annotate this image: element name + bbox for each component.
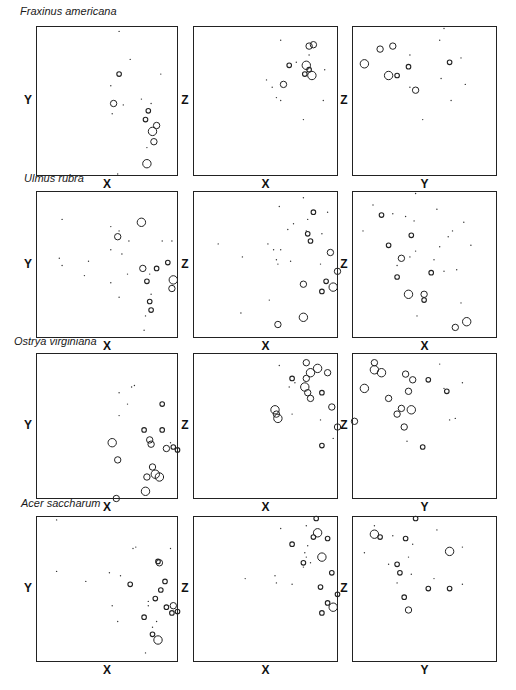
data-point (415, 193, 416, 194)
data-point (287, 229, 288, 230)
data-point (240, 312, 241, 313)
data-point (407, 406, 415, 414)
data-point (291, 413, 292, 414)
data-point (110, 100, 116, 106)
data-point (296, 62, 297, 63)
data-point (460, 302, 461, 303)
data-point (395, 275, 400, 280)
data-point (327, 212, 328, 213)
data-point (308, 239, 313, 244)
scatter-plot-area (353, 354, 496, 498)
y-axis-label: Z (177, 418, 193, 432)
scatter-plot-area (353, 27, 496, 175)
data-point (445, 389, 450, 394)
data-point (465, 84, 466, 85)
data-point (148, 441, 154, 447)
data-point (142, 428, 147, 433)
data-point (463, 318, 471, 326)
data-point (325, 601, 330, 606)
data-point (146, 147, 147, 148)
data-point (127, 273, 128, 274)
data-point (310, 562, 311, 563)
data-point (287, 63, 292, 68)
data-point (149, 308, 154, 313)
scatter-panel (193, 516, 338, 662)
x-axis-label: X (99, 339, 115, 353)
data-point (384, 71, 392, 79)
data-point (149, 464, 155, 470)
data-point (394, 411, 400, 417)
data-point (310, 42, 316, 48)
y-axis-label: Z (336, 418, 352, 432)
data-point (169, 285, 175, 291)
data-point (410, 377, 416, 383)
data-point (61, 265, 62, 266)
data-point (405, 216, 406, 217)
species-title: Ostrya virginiana (14, 335, 97, 347)
scatter-plot-area (353, 192, 496, 337)
scatter-plot-area (37, 517, 177, 661)
data-point (160, 402, 165, 407)
data-point (439, 40, 440, 41)
data-point (455, 418, 456, 419)
data-point (130, 59, 131, 60)
data-point (293, 223, 294, 224)
data-point (378, 535, 383, 540)
data-point (118, 415, 119, 416)
data-point (56, 571, 57, 572)
data-point (314, 516, 319, 521)
data-point (145, 315, 146, 316)
data-point (135, 546, 136, 547)
data-point (266, 79, 267, 80)
data-point (426, 586, 431, 591)
data-point (171, 445, 176, 450)
data-point (360, 60, 368, 68)
data-point (318, 553, 326, 561)
data-point (324, 370, 330, 376)
data-point (273, 249, 274, 250)
data-point (388, 564, 389, 565)
data-point (462, 584, 463, 585)
y-axis-label: Y (20, 581, 36, 595)
scatter-panel (36, 516, 178, 662)
data-point (160, 428, 165, 433)
data-point (392, 535, 393, 536)
data-point (154, 266, 159, 271)
data-point (429, 270, 434, 275)
x-axis-label: X (258, 663, 274, 677)
data-point (147, 437, 153, 443)
data-point (84, 275, 85, 276)
data-point (141, 487, 149, 495)
data-point (324, 279, 329, 284)
data-point (303, 360, 309, 366)
data-point (320, 289, 325, 294)
scatter-panel (36, 353, 178, 499)
data-point (406, 64, 411, 69)
data-point (164, 605, 169, 610)
data-point (306, 556, 307, 557)
data-point (123, 104, 124, 105)
data-point (175, 609, 180, 614)
data-point (144, 474, 150, 480)
data-point (420, 445, 425, 450)
data-point (413, 220, 414, 221)
data-point (175, 448, 180, 453)
data-point (448, 236, 449, 237)
data-point (306, 43, 312, 49)
data-point (290, 376, 295, 381)
data-point (333, 438, 334, 439)
data-point (128, 582, 133, 587)
species-title: Acer saccharum (21, 497, 100, 509)
data-point (279, 206, 280, 207)
data-point (462, 546, 463, 547)
data-point (303, 566, 304, 567)
data-point (329, 283, 337, 291)
data-point (422, 119, 423, 120)
data-point (401, 424, 407, 430)
data-point (110, 282, 111, 283)
data-point (447, 60, 452, 65)
data-point (267, 243, 268, 244)
data-point (277, 263, 278, 264)
data-point (452, 230, 453, 231)
data-point (128, 240, 129, 241)
